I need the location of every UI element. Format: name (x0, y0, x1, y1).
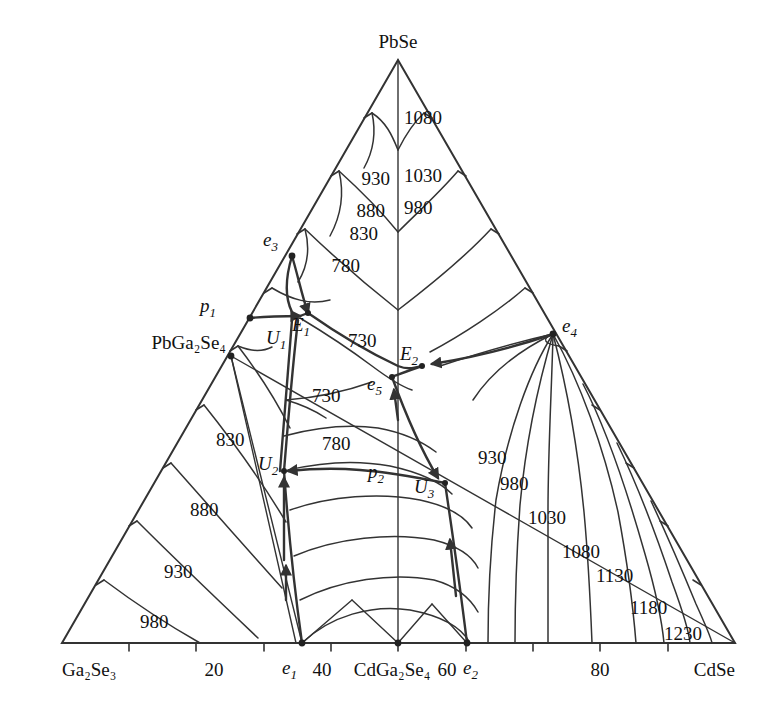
label-e4: e4 (562, 315, 577, 340)
phase-diagram-canvas: PbSe Ga₂Se₃ 20 40 60 80 CdSe PbGa₂Se₄ Cd… (0, 0, 768, 717)
point-u3 (442, 480, 448, 486)
contour-label-830-left: 830 (216, 429, 245, 450)
contour-label-730-upper: 730 (348, 330, 377, 351)
axis-tick-label-60: 60 (438, 659, 457, 680)
corner-label-cdse: CdSe (694, 659, 735, 680)
contour-label-980-right: 980 (500, 473, 529, 494)
point-p1 (247, 315, 254, 322)
point-cdga2se4 (395, 640, 402, 647)
label-e1: e1 (282, 657, 297, 682)
label-e5: e5 (367, 373, 382, 398)
label-u2: U2 (258, 453, 279, 478)
contour-label-1030-right: 1030 (528, 507, 566, 528)
axis-tick-label-20: 20 (205, 659, 224, 680)
contour-label-1180-right: 1180 (630, 597, 667, 618)
contour-label-880-left: 880 (190, 499, 219, 520)
point-e1-ternary (305, 310, 311, 316)
point-e2-ternary (419, 363, 425, 369)
contour-label-1080-right: 1080 (562, 541, 600, 562)
label-big-e2: E2 (399, 343, 419, 368)
axis-tick-label-40: 40 (313, 659, 332, 680)
label-e2: e2 (463, 657, 478, 682)
point-e3 (289, 253, 296, 260)
point-e1 (299, 640, 306, 647)
isotherms-cdse-field (440, 334, 712, 643)
contour-label-980-left: 980 (140, 611, 169, 632)
contour-label-830-top: 830 (350, 223, 379, 244)
ternary-phase-diagram: PbSe Ga₂Se₃ 20 40 60 80 CdSe PbGa₂Se₄ Cd… (0, 0, 768, 717)
compound-label-cdga2se4: CdGa₂Se₄ (354, 659, 431, 680)
join-lines (231, 60, 735, 643)
contour-labels: 1080 1030 980 930 880 830 780 730 730 78… (140, 107, 702, 644)
apex-label-pbse: PbSe (378, 31, 417, 52)
contour-label-730-lower: 730 (312, 385, 341, 406)
label-e3: e3 (263, 229, 278, 254)
compound-label-pbga2se4: PbGa₂Se₄ (152, 332, 226, 353)
contour-label-930-left: 930 (164, 561, 193, 582)
point-e5 (389, 374, 395, 380)
contour-label-930-top: 930 (362, 168, 391, 189)
contour-label-1230-right: 1230 (664, 623, 702, 644)
contour-label-880-top: 880 (357, 200, 386, 221)
point-e4 (550, 331, 557, 338)
label-big-e1: E1 (291, 314, 310, 339)
point-u2 (281, 468, 287, 474)
contour-label-1080-top: 1080 (404, 107, 442, 128)
axis-tick-label-80: 80 (591, 659, 610, 680)
label-p1: p1 (198, 295, 216, 320)
contour-label-980-top: 980 (404, 197, 433, 218)
corner-label-ga2se3: Ga₂Se₃ (62, 659, 116, 680)
diagram-lines (62, 60, 735, 651)
contour-label-780-top: 780 (332, 255, 361, 276)
contour-label-1130-right: 1130 (596, 565, 633, 586)
point-e2 (464, 640, 471, 647)
contour-label-1030-top: 1030 (404, 165, 442, 186)
point-pbga2se4 (228, 353, 235, 360)
contour-label-780-lower: 780 (322, 433, 351, 454)
contour-label-930-right: 930 (478, 447, 507, 468)
